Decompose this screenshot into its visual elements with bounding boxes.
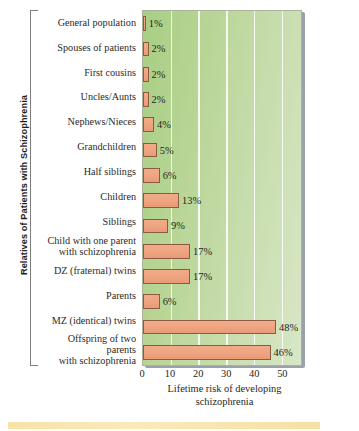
bar-value-label: 13%: [182, 195, 201, 206]
x-axis-tick-label: 10: [165, 368, 175, 379]
y-axis-title: Relatives of Patients with Schizophrenia: [19, 65, 29, 305]
bar-value-label: 17%: [193, 246, 212, 257]
bar-row: 46%: [143, 340, 301, 365]
bar: [143, 168, 160, 183]
bar: [143, 320, 276, 335]
category-label: Siblings: [36, 209, 140, 234]
bar: [143, 193, 179, 208]
bar: [143, 345, 271, 360]
bar-row: 1%: [143, 11, 301, 36]
bar-value-label: 2%: [152, 69, 166, 80]
category-label: MZ (identical) twins: [36, 308, 140, 333]
category-label: Offspring of two parents with schizophre…: [36, 333, 140, 366]
bar-row: 2%: [143, 87, 301, 112]
bar-value-label: 9%: [171, 220, 185, 231]
bar-row: 17%: [143, 264, 301, 289]
bar-series: 1%2%2%2%4%5%6%13%9%17%17%6%48%46%: [143, 11, 301, 365]
category-label: Uncles/Aunts: [36, 85, 140, 110]
category-label: Spouses of patients: [36, 35, 140, 60]
category-label: General population: [36, 10, 140, 35]
bar-value-label: 2%: [152, 94, 166, 105]
x-axis-tick-labels: 01020304050: [142, 368, 302, 382]
x-axis-tick-label: 40: [249, 368, 259, 379]
bar-value-label: 5%: [160, 145, 174, 156]
bar-row: 2%: [143, 36, 301, 61]
bar: [143, 244, 190, 259]
bar-row: 6%: [143, 163, 301, 188]
bar: [143, 16, 146, 31]
bar-value-label: 48%: [279, 322, 298, 333]
category-label: DZ (fraternal) twins: [36, 258, 140, 283]
category-label: Parents: [36, 283, 140, 308]
bar-row: 5%: [143, 137, 301, 162]
bar-chart-figure: Relatives of Patients with Schizophrenia…: [0, 0, 359, 431]
category-label: Nephews/Nieces: [36, 109, 140, 134]
x-axis-tick-label: 0: [139, 368, 144, 379]
x-axis-tick-label: 20: [193, 368, 203, 379]
bottom-color-band: [8, 422, 320, 429]
bar-row: 6%: [143, 289, 301, 314]
bar: [143, 92, 149, 107]
category-label: Children: [36, 184, 140, 209]
x-axis-title: Lifetime risk of developing schizophreni…: [132, 383, 317, 408]
category-label: First cousins: [36, 60, 140, 85]
category-label-column: General populationSpouses of patientsFir…: [36, 10, 140, 366]
category-label: Grandchildren: [36, 134, 140, 159]
bar-row: 4%: [143, 112, 301, 137]
x-axis-tick-label: 30: [221, 368, 231, 379]
bar-row: 48%: [143, 314, 301, 339]
bar: [143, 294, 160, 309]
bar-value-label: 6%: [163, 296, 177, 307]
bar: [143, 143, 157, 158]
bar-row: 17%: [143, 239, 301, 264]
bar: [143, 219, 168, 234]
plot-area: 1%2%2%2%4%5%6%13%9%17%17%6%48%46%: [142, 10, 302, 366]
category-label: Half siblings: [36, 159, 140, 184]
bar-row: 13%: [143, 188, 301, 213]
x-axis-title-line-1: Lifetime risk of developing: [132, 383, 317, 396]
bar-value-label: 4%: [157, 119, 171, 130]
bar-value-label: 1%: [149, 18, 163, 29]
bar: [143, 67, 149, 82]
bar-value-label: 46%: [274, 347, 293, 358]
bar-value-label: 6%: [163, 170, 177, 181]
bar: [143, 42, 149, 57]
bar: [143, 269, 190, 284]
bar-value-label: 17%: [193, 271, 212, 282]
x-axis-tick-label: 50: [277, 368, 287, 379]
bar-row: 2%: [143, 62, 301, 87]
bar: [143, 117, 154, 132]
category-label: Child with one parent with schizophrenia: [36, 234, 140, 259]
x-axis-title-line-2: schizophrenia: [132, 396, 317, 409]
bar-row: 9%: [143, 213, 301, 238]
bar-value-label: 2%: [152, 43, 166, 54]
